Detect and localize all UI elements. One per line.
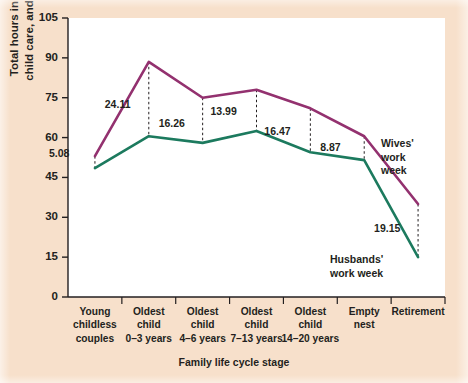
y-tick-label: 0 xyxy=(30,290,58,302)
y-tick-label: 45 xyxy=(30,170,58,182)
y-tick-label: 75 xyxy=(30,91,58,103)
gap-value-label: 19.15 xyxy=(374,222,400,234)
x-category-label: Retirement xyxy=(385,305,451,318)
y-tick-label: 15 xyxy=(30,250,58,262)
gap-value-label: 24.11 xyxy=(105,98,131,110)
gap-value-label: 13.99 xyxy=(211,105,237,117)
x-axis-title: Family life cycle stage xyxy=(0,356,468,368)
gap-value-label: 16.26 xyxy=(159,117,185,129)
chart-figure: Total hours in housework,child care, and… xyxy=(0,0,468,383)
series-callout-wives: Wives' work week xyxy=(381,137,414,178)
y-tick-label: 105 xyxy=(30,11,58,23)
y-tick-label: 60 xyxy=(30,131,58,143)
y-tick-label: 90 xyxy=(30,51,58,63)
gap-value-label: 8.87 xyxy=(320,141,340,153)
gap-value-label: 5.08 xyxy=(49,147,69,159)
x-axis-ticks xyxy=(122,297,445,304)
series-callout-husbands: Husbands' work week xyxy=(330,253,383,280)
gap-value-label: 16.47 xyxy=(264,125,290,137)
y-tick-label: 30 xyxy=(30,210,58,222)
